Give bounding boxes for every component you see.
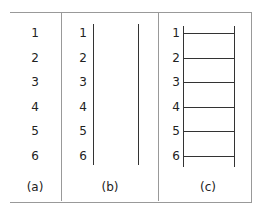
label-6: 6 [77,150,89,162]
rail-left [183,26,184,167]
label-6: 6 [29,150,41,162]
rail-left [93,24,94,165]
rail-right [234,26,235,167]
rung-2 [183,58,235,59]
rail-right [138,24,139,165]
panel-divider-bc [158,12,159,201]
caption-b: (b) [95,180,125,194]
label-5: 5 [170,125,182,137]
label-4: 4 [170,101,182,113]
label-3: 3 [77,76,89,88]
label-2: 2 [29,52,41,64]
label-1: 1 [170,27,182,39]
label-4: 4 [77,101,89,113]
label-3: 3 [170,76,182,88]
label-4: 4 [29,101,41,113]
label-2: 2 [170,52,182,64]
label-6: 6 [170,150,182,162]
label-5: 5 [77,125,89,137]
label-1: 1 [29,27,41,39]
caption-c: (c) [193,180,223,194]
label-3: 3 [29,76,41,88]
rung-5 [183,131,235,132]
rung-3 [183,82,235,83]
label-1: 1 [77,27,89,39]
panel-divider-ab [61,12,62,201]
rung-6 [183,156,235,157]
label-2: 2 [77,52,89,64]
caption-a: (a) [20,180,50,194]
label-5: 5 [29,125,41,137]
rung-1 [183,33,235,34]
rung-4 [183,107,235,108]
